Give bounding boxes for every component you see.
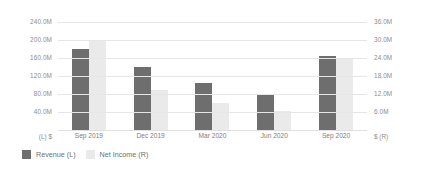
legend-item-revenue[interactable]: Revenue (L) bbox=[22, 150, 76, 159]
legend-label-net-income: Net Income (R) bbox=[100, 151, 149, 158]
legend-item-net-income[interactable]: Net Income (R) bbox=[86, 150, 149, 159]
dual-axis-bar-chart: 240.0M36.0M200.0M30.0M160.0M24.0M120.0M1… bbox=[0, 0, 439, 169]
y-axis-left-tick: 200.0M bbox=[30, 37, 52, 43]
y-axis-right-tick: 24.0M bbox=[374, 55, 392, 61]
y-axis-left-tick: 80.0M bbox=[34, 91, 52, 97]
legend-swatch-net-income-icon bbox=[86, 150, 95, 159]
y-axis-right-tick: 6.0M bbox=[374, 109, 389, 115]
bar-net-income[interactable] bbox=[89, 40, 106, 130]
x-axis-label: Sep 2020 bbox=[307, 133, 365, 140]
gridline bbox=[58, 76, 367, 77]
bar-revenue[interactable] bbox=[319, 56, 336, 130]
x-axis-label: Sep 2019 bbox=[60, 133, 118, 140]
x-axis-label: Mar 2020 bbox=[183, 133, 241, 140]
y-axis-left-tick: 240.0M bbox=[30, 19, 52, 25]
bar-revenue[interactable] bbox=[195, 83, 212, 130]
legend-swatch-revenue-icon bbox=[22, 150, 31, 159]
y-axis-left-unit-label: (L) $ bbox=[39, 134, 52, 140]
bar-net-income[interactable] bbox=[274, 111, 291, 131]
gridline bbox=[58, 58, 367, 59]
gridline bbox=[58, 94, 367, 95]
plot-area: 240.0M36.0M200.0M30.0M160.0M24.0M120.0M1… bbox=[58, 22, 367, 130]
gridline bbox=[58, 112, 367, 113]
gridline bbox=[58, 40, 367, 41]
x-axis-labels: Sep 2019Dec 2019Mar 2020Jun 2020Sep 2020 bbox=[58, 133, 367, 140]
y-axis-right-tick: 36.0M bbox=[374, 19, 392, 25]
axis-baseline bbox=[58, 130, 367, 131]
y-axis-right-tick: 12.0M bbox=[374, 91, 392, 97]
y-axis-right-tick: 18.0M bbox=[374, 73, 392, 79]
y-axis-right-tick: 30.0M bbox=[374, 37, 392, 43]
y-axis-left-tick: 40.0M bbox=[34, 109, 52, 115]
legend-label-revenue: Revenue (L) bbox=[36, 151, 76, 158]
bar-net-income[interactable] bbox=[151, 90, 168, 131]
y-axis-right-unit-label: $ (R) bbox=[374, 134, 388, 140]
x-axis-label: Jun 2020 bbox=[245, 133, 303, 140]
bar-net-income[interactable] bbox=[212, 103, 229, 130]
x-axis-label: Dec 2019 bbox=[122, 133, 180, 140]
y-axis-left-tick: 120.0M bbox=[30, 73, 52, 79]
chart-legend: Revenue (L) Net Income (R) bbox=[22, 150, 148, 159]
y-axis-left-tick: 160.0M bbox=[30, 55, 52, 61]
gridline bbox=[58, 22, 367, 23]
bar-revenue[interactable] bbox=[72, 49, 89, 130]
